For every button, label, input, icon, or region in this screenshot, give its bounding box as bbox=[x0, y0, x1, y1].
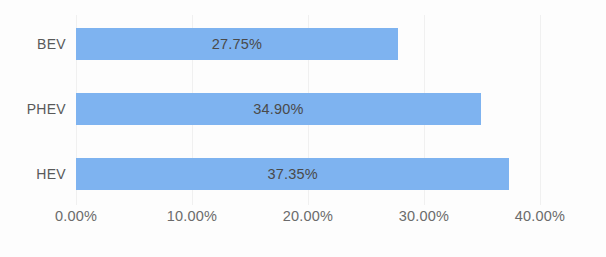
bar-value-label: 27.75% bbox=[212, 28, 262, 60]
x-axis-tick-label: 40.00% bbox=[515, 208, 565, 224]
bar-chart: 27.75%BEV34.90%PHEV37.35%HEV0.00%10.00%2… bbox=[0, 0, 606, 257]
x-axis-tick-label: 20.00% bbox=[283, 208, 333, 224]
gridline bbox=[540, 15, 541, 205]
bar-value-label: 37.35% bbox=[267, 158, 317, 190]
category-label-hev: HEV bbox=[36, 158, 66, 190]
category-label-phev: PHEV bbox=[27, 93, 66, 125]
bar-value-label: 34.90% bbox=[253, 93, 303, 125]
category-label-bev: BEV bbox=[37, 28, 66, 60]
x-axis-tick-label: 30.00% bbox=[399, 208, 449, 224]
x-axis-tick-label: 0.00% bbox=[55, 208, 97, 224]
x-axis-tick-label: 10.00% bbox=[167, 208, 217, 224]
